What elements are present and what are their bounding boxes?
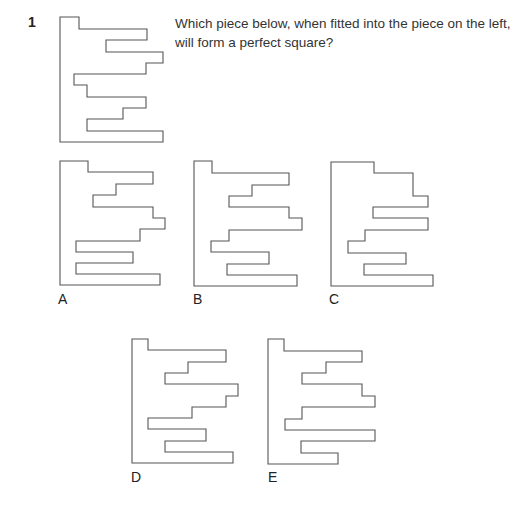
option-b-piece[interactable]	[194, 161, 302, 286]
option-e-label[interactable]: E	[268, 469, 277, 485]
option-e-piece[interactable]	[268, 339, 375, 464]
main-piece	[60, 17, 163, 142]
option-b-label[interactable]: B	[193, 291, 202, 307]
option-a-piece[interactable]	[60, 161, 165, 285]
option-c-piece[interactable]	[331, 162, 433, 286]
option-a-label[interactable]: A	[58, 291, 67, 307]
option-d-label[interactable]: D	[131, 469, 141, 485]
puzzle-figures	[0, 0, 523, 505]
option-d-piece[interactable]	[132, 339, 238, 463]
option-c-label[interactable]: C	[329, 291, 339, 307]
